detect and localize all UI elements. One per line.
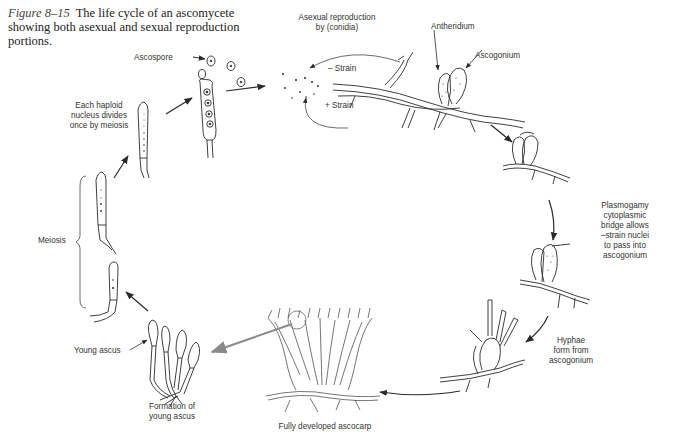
mature-ascus bbox=[199, 79, 216, 158]
gametangia-contact bbox=[503, 132, 570, 184]
label-haploid: Each haploid nucleus divides once by mei… bbox=[62, 101, 136, 131]
label-hyphae-3: ascogonium bbox=[536, 356, 606, 366]
label-ascospore: Ascospore bbox=[134, 53, 173, 63]
label-asexual-reproduction: Asexual reproduction by (conidia) bbox=[292, 13, 382, 33]
label-formation-2: young ascus bbox=[140, 412, 204, 422]
haploid-ascus bbox=[138, 102, 149, 178]
label-plasmogamy-3: bridge allows bbox=[585, 221, 665, 231]
label-young-ascus: Young ascus bbox=[74, 346, 121, 356]
plasmogamy-stage bbox=[520, 244, 590, 308]
label-ascogonium: Ascogonium bbox=[475, 51, 520, 61]
young-ascus-cluster bbox=[148, 320, 199, 406]
label-ascocarp: Fully developed ascocarp bbox=[270, 422, 380, 432]
label-asexual-line2: by (conidia) bbox=[292, 23, 382, 33]
label-plus-strain: + Strain bbox=[325, 101, 353, 111]
label-plasmogamy-1: Plasmogamy bbox=[585, 201, 665, 211]
label-minus-strain: – Strain bbox=[328, 64, 356, 74]
ascocarp bbox=[266, 308, 380, 412]
meiosis-bracket bbox=[76, 176, 86, 308]
label-hyphae: Hyphae form from ascogonium bbox=[536, 336, 606, 366]
mycelium-gametangia bbox=[333, 52, 525, 132]
label-hyphae-1: Hyphae bbox=[536, 336, 606, 346]
label-plasmogamy-4: –strain nuclei bbox=[585, 231, 665, 241]
label-plasmogamy: Plasmogamy cytoplasmic bridge allows –st… bbox=[585, 201, 665, 261]
label-asexual-line1: Asexual reproduction bbox=[292, 13, 382, 23]
ascospores bbox=[199, 56, 246, 87]
label-plasmogamy-5: to pass into bbox=[585, 241, 665, 251]
conidia bbox=[282, 73, 319, 99]
label-formation: Formation of young ascus bbox=[140, 402, 204, 422]
label-formation-1: Formation of bbox=[140, 402, 204, 412]
label-haploid-3: once by meiosis bbox=[62, 121, 136, 131]
label-haploid-2: nucleus divides bbox=[62, 111, 136, 121]
meiosis-asci bbox=[90, 172, 118, 322]
label-haploid-1: Each haploid bbox=[62, 101, 136, 111]
label-antheridium: Antheridium bbox=[431, 22, 475, 32]
label-plasmogamy-6: ascogonium bbox=[585, 251, 665, 261]
label-hyphae-2: form from bbox=[536, 346, 606, 356]
hyphae-stage bbox=[440, 300, 525, 392]
label-meiosis: Meiosis bbox=[38, 236, 66, 246]
label-plasmogamy-2: cytoplasmic bbox=[585, 211, 665, 221]
